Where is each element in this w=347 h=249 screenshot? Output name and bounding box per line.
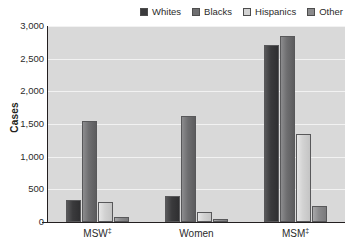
- y-axis-line: [47, 26, 48, 223]
- bar-blacks: [280, 36, 295, 222]
- y-tick-label: 0: [0, 217, 44, 227]
- bar-whites: [66, 200, 81, 222]
- y-tick-label: 1,500: [0, 119, 44, 129]
- bar-other: [312, 206, 327, 222]
- legend-swatch-icon: [307, 8, 315, 16]
- bar-whites: [264, 45, 279, 222]
- legend-item-hispanics: Hispanics: [243, 7, 296, 17]
- bar-whites: [165, 196, 180, 222]
- legend-item-other: Other: [307, 7, 343, 17]
- chart-legend: WhitesBlacksHispanicsOther: [0, 5, 347, 19]
- legend-swatch-icon: [192, 8, 200, 16]
- y-tick-label: 1,000: [0, 152, 44, 162]
- bar-chart: WhitesBlacksHispanicsOther 3,0002,5002,0…: [0, 0, 347, 249]
- footnote-mark: ‡: [108, 227, 112, 234]
- y-tick-label: 2,000: [0, 86, 44, 96]
- bar-group: [246, 26, 345, 222]
- legend-label: Whites: [152, 7, 181, 17]
- bar-hispanics: [296, 134, 311, 222]
- legend-label: Blacks: [204, 7, 232, 17]
- y-tick-label: 500: [0, 184, 44, 194]
- bar-blacks: [82, 121, 97, 222]
- y-tick-label: 3,000: [0, 21, 44, 31]
- footnote-mark: ‡: [305, 227, 309, 234]
- bar-group: [147, 26, 246, 222]
- legend-item-blacks: Blacks: [192, 7, 232, 17]
- bar-groups: [48, 26, 345, 222]
- legend-item-whites: Whites: [140, 7, 181, 17]
- bar-group: [48, 26, 147, 222]
- x-axis-labels: MSW‡WomenMSM‡: [48, 228, 345, 244]
- y-axis-ticks: 3,0002,5002,0001,5001,0005000: [0, 0, 44, 249]
- bar-hispanics: [98, 202, 113, 222]
- legend-label: Other: [319, 7, 343, 17]
- bar-hispanics: [197, 212, 212, 222]
- bar-blacks: [181, 116, 196, 222]
- x-axis-line: [42, 222, 345, 223]
- x-axis-label: MSM‡: [246, 228, 345, 244]
- y-axis-title: Cases: [9, 88, 20, 148]
- x-axis-label: Women: [147, 228, 246, 244]
- legend-swatch-icon: [140, 8, 148, 16]
- legend-label: Hispanics: [255, 7, 296, 17]
- legend-swatch-icon: [243, 8, 251, 16]
- y-tick-label: 2,500: [0, 54, 44, 64]
- plot-area: [48, 26, 345, 222]
- x-axis-label: MSW‡: [48, 228, 147, 244]
